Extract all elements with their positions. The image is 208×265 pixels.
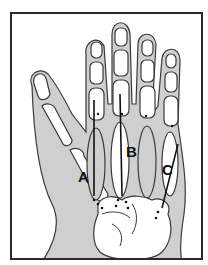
little-distal xyxy=(166,54,176,68)
diagram-frame: A B C xyxy=(10,12,203,260)
carpal-bones xyxy=(94,196,171,259)
middle-middle xyxy=(114,50,128,76)
index-middle xyxy=(90,62,103,84)
ring-distal xyxy=(142,40,153,56)
index-distal xyxy=(91,42,102,58)
label-a: A xyxy=(78,169,89,184)
hand-skeleton-illustration xyxy=(12,14,203,260)
little-middle xyxy=(165,72,177,92)
index-proximal xyxy=(89,88,104,120)
label-b: B xyxy=(126,144,137,159)
ring-metacarpal xyxy=(138,126,156,198)
middle-distal xyxy=(115,28,127,46)
ring-proximal xyxy=(140,86,155,118)
little-proximal xyxy=(164,96,178,126)
ring-middle xyxy=(141,60,154,82)
label-c: C xyxy=(162,162,173,177)
index-metacarpal xyxy=(87,128,105,200)
